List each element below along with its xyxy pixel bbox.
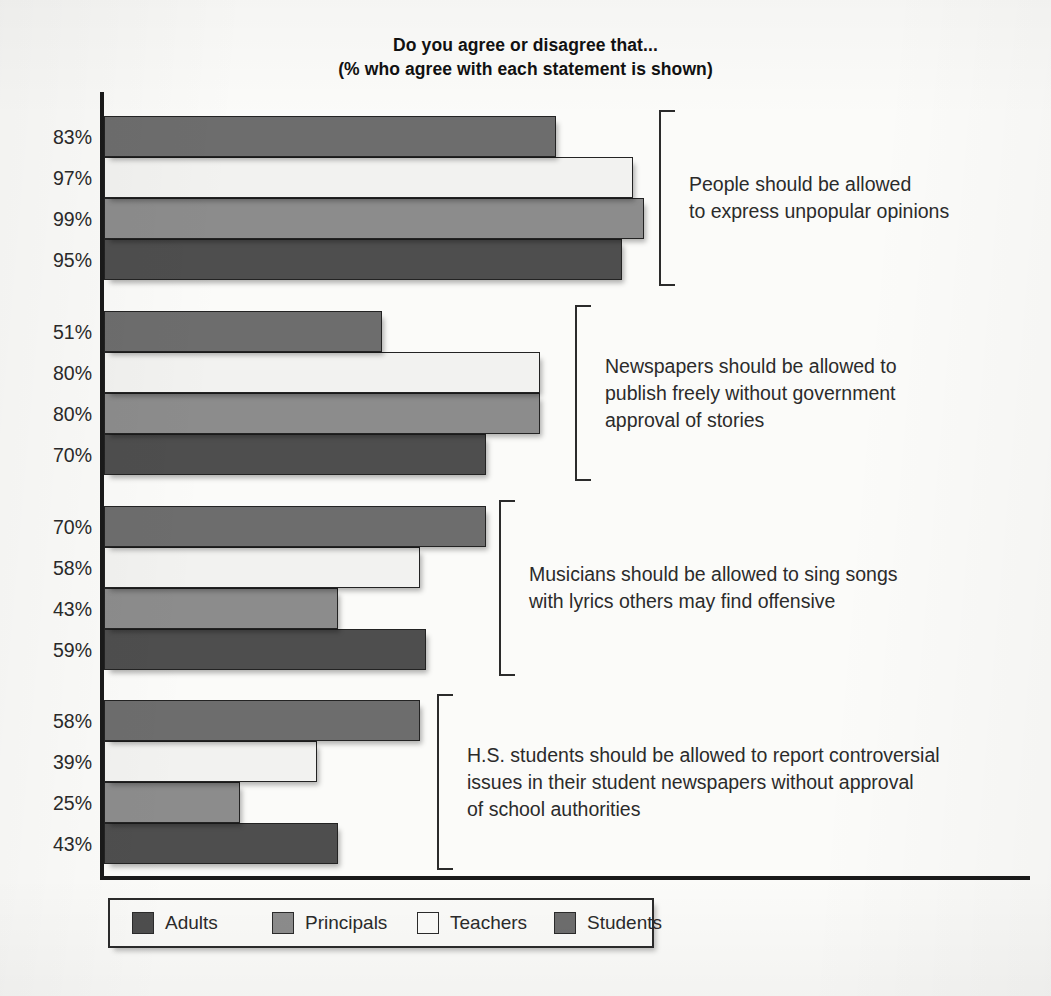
statement-line: with lyrics others may find offensive (529, 588, 898, 615)
bar-teachers-group-3 (104, 547, 420, 588)
value-label-principals-group-3: 43% (20, 599, 92, 619)
chart-title: Do you agree or disagree that... (% who … (0, 33, 1051, 81)
legend-label-students: Students (587, 912, 662, 934)
x-axis-line (100, 876, 1030, 880)
statement-line: issues in their student newspapers witho… (467, 769, 940, 796)
legend-item-students[interactable]: Students (554, 900, 662, 946)
bar-adults-group-4 (104, 823, 338, 864)
legend-item-adults[interactable]: Adults (132, 900, 218, 946)
legend: AdultsPrincipalsTeachersStudents (108, 898, 654, 948)
chart-title-line-2: (% who agree with each statement is show… (0, 57, 1051, 81)
statement-line: H.S. students should be allowed to repor… (467, 742, 940, 769)
bar-teachers-group-4 (104, 741, 317, 782)
legend-swatch-teachers (417, 912, 439, 934)
statement-line: People should be allowed (689, 171, 949, 198)
value-label-teachers-group-1: 97% (20, 168, 92, 188)
bar-students-group-1 (104, 116, 556, 157)
legend-item-principals[interactable]: Principals (272, 900, 387, 946)
value-label-students-group-2: 51% (20, 322, 92, 342)
group-bracket-3 (499, 500, 515, 676)
bar-teachers-group-1 (104, 157, 633, 198)
statement-line: of school authorities (467, 796, 940, 823)
bar-students-group-2 (104, 311, 382, 352)
statement-line: publish freely without government (605, 380, 897, 407)
statement-line: Musicians should be allowed to sing song… (529, 561, 898, 588)
group-bracket-4 (437, 694, 453, 870)
bar-principals-group-1 (104, 198, 644, 239)
statement-line: Newspapers should be allowed to (605, 353, 897, 380)
statement-line: approval of stories (605, 407, 897, 434)
value-label-teachers-group-4: 39% (20, 752, 92, 772)
legend-label-adults: Adults (165, 912, 218, 934)
bar-principals-group-4 (104, 782, 240, 823)
value-label-adults-group-4: 43% (20, 834, 92, 854)
group-bracket-2 (575, 305, 591, 481)
legend-swatch-principals (272, 912, 294, 934)
group-bracket-1 (659, 110, 675, 286)
bar-students-group-3 (104, 506, 486, 547)
statement-text-group-3: Musicians should be allowed to sing song… (529, 561, 898, 615)
value-label-teachers-group-3: 58% (20, 558, 92, 578)
bar-adults-group-3 (104, 629, 426, 670)
bar-principals-group-3 (104, 588, 338, 629)
bar-adults-group-1 (104, 239, 622, 280)
statement-line: to express unpopular opinions (689, 198, 949, 225)
legend-label-teachers: Teachers (450, 912, 527, 934)
value-label-students-group-1: 83% (20, 127, 92, 147)
legend-swatch-students (554, 912, 576, 934)
value-label-adults-group-1: 95% (20, 250, 92, 270)
value-label-adults-group-3: 59% (20, 640, 92, 660)
chart-page: Do you agree or disagree that... (% who … (0, 0, 1051, 996)
legend-item-teachers[interactable]: Teachers (417, 900, 527, 946)
value-label-students-group-4: 58% (20, 711, 92, 731)
bar-students-group-4 (104, 700, 420, 741)
value-label-students-group-3: 70% (20, 517, 92, 537)
legend-swatch-adults (132, 912, 154, 934)
value-label-principals-group-2: 80% (20, 404, 92, 424)
statement-text-group-4: H.S. students should be allowed to repor… (467, 742, 940, 823)
bar-adults-group-2 (104, 434, 486, 475)
bar-principals-group-2 (104, 393, 540, 434)
value-label-principals-group-4: 25% (20, 793, 92, 813)
chart-title-line-1: Do you agree or disagree that... (393, 35, 658, 55)
value-label-adults-group-2: 70% (20, 445, 92, 465)
bar-teachers-group-2 (104, 352, 540, 393)
statement-text-group-1: People should be allowedto express unpop… (689, 171, 949, 225)
legend-label-principals: Principals (305, 912, 387, 934)
value-label-teachers-group-2: 80% (20, 363, 92, 383)
statement-text-group-2: Newspapers should be allowed topublish f… (605, 353, 897, 434)
value-label-principals-group-1: 99% (20, 209, 92, 229)
